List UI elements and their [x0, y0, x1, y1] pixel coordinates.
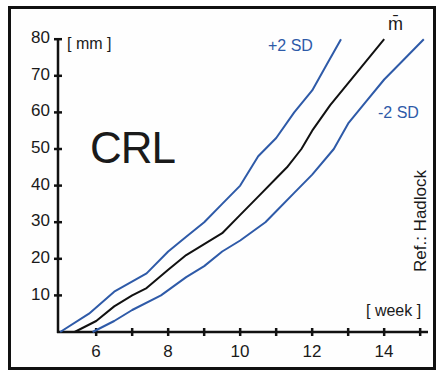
y-tick-label: 30: [20, 211, 50, 231]
y-tick-label: 70: [20, 65, 50, 85]
curves: [60, 39, 424, 332]
y-tick-label: 50: [20, 138, 50, 158]
x-tick-label: 6: [81, 342, 111, 362]
y-tick-label: 20: [20, 248, 50, 268]
x-tick-label: 12: [297, 342, 327, 362]
plus-2sd-label: +2 SD: [268, 37, 313, 55]
curve-plus-2sd: [60, 39, 341, 332]
x-tick-label: 8: [153, 342, 183, 362]
chart-title: CRL: [90, 123, 175, 173]
curve-minus-2sd: [93, 39, 424, 332]
reference-label: Ref.: Hadlock: [411, 170, 431, 272]
x-tick-label: 10: [225, 342, 255, 362]
mean-label: m̄: [388, 14, 403, 35]
minus-2sd-label: -2 SD: [378, 104, 419, 122]
y-tick-label: 80: [20, 28, 50, 48]
y-tick-label: 60: [20, 101, 50, 121]
x-axis-unit: [ week ]: [366, 302, 421, 320]
y-axis-unit: [ mm ]: [67, 35, 111, 53]
x-tick-label: 14: [369, 342, 399, 362]
y-tick-label: 40: [20, 175, 50, 195]
y-tick-label: 10: [20, 285, 50, 305]
chart-plot-area: [0, 0, 448, 379]
